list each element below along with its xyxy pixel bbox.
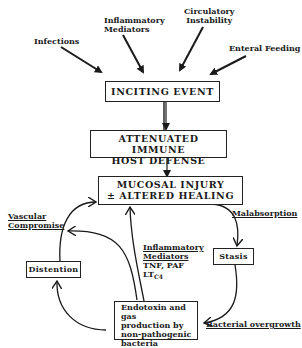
node-attenuated-immune-host-defense: ATTENUATED IMMUNE HOST DEFENSE: [90, 130, 227, 158]
node-stasis: Stasis: [213, 248, 254, 265]
label-malabsorption: Malabsorption: [232, 209, 297, 218]
label-inflammatory-mediators: Inflammatory Mediators TNF, PAF LTC4: [143, 243, 204, 281]
label-line-lt: LTC4: [143, 270, 204, 281]
node-line: Endotoxin and gas: [121, 303, 197, 321]
arrow-to-distention: [57, 281, 106, 330]
node-line: HOST DEFENSE: [91, 155, 226, 166]
node-inciting-event: INCITING EVENT: [105, 81, 220, 102]
node-endotoxin: Endotoxin and gas production by non-path…: [114, 301, 198, 340]
cause-inflammatory-mediators: Inflammatory Mediators: [104, 16, 165, 34]
label-line: Compromise: [8, 221, 64, 230]
label-vascular-compromise: Vascular Compromise: [8, 212, 64, 230]
cause-enteral-feeding: Enteral Feeding: [229, 44, 300, 53]
node-distention: Distention: [26, 261, 81, 278]
arrow-infections: [61, 47, 101, 72]
arrow-inflammatory: [123, 35, 143, 72]
node-line: ± ALTERED HEALING: [99, 190, 242, 201]
cause-infections: Infections: [34, 37, 79, 46]
node-mucosal-injury: MUCOSAL INJURY ± ALTERED HEALING: [98, 176, 243, 205]
cause-line: Mediators: [104, 25, 165, 34]
lt-main: LT: [143, 269, 154, 279]
node-line: bacteria: [121, 339, 197, 348]
node-line: MUCOSAL INJURY: [99, 179, 242, 190]
arrow-inflammatory-mediators: [130, 207, 144, 301]
arrow-enteral: [211, 56, 246, 74]
node-line: ATTENUATED IMMUNE: [91, 133, 226, 155]
cause-circulatory-instability: Circulatory Instability: [184, 7, 234, 25]
label-bacterial-overgrowth: Bacterial overgrowth: [206, 320, 301, 329]
lt-sub: C4: [154, 273, 163, 280]
arrow-bacterial: [204, 265, 237, 323]
cause-line: Instability: [184, 16, 234, 25]
arrow-circulatory: [180, 27, 203, 70]
